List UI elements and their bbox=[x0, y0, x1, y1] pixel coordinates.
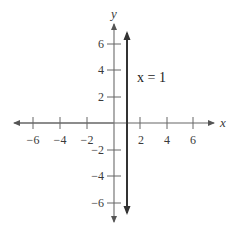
y-tick-label: −6 bbox=[91, 196, 104, 210]
y-tick-label: 6 bbox=[98, 37, 104, 51]
x-tick-label: 4 bbox=[164, 133, 170, 147]
y-tick-label: −4 bbox=[91, 169, 104, 183]
y-axis-label: y bbox=[109, 6, 117, 21]
coordinate-plane: −6 −4 −2 2 4 6 6 4 2 −2 −4 −6 x y x = 1 bbox=[0, 0, 238, 233]
y-tick-label: 2 bbox=[98, 90, 104, 104]
line-annotation: x = 1 bbox=[137, 70, 166, 85]
y-tick-label: −2 bbox=[91, 143, 104, 157]
x-axis-label: x bbox=[219, 115, 226, 130]
x-tick-label: −6 bbox=[27, 133, 40, 147]
x-tick-label: −4 bbox=[54, 133, 67, 147]
x-tick-label: 2 bbox=[138, 133, 144, 147]
x-tick-label: 6 bbox=[190, 133, 196, 147]
y-tick-label: 4 bbox=[98, 63, 104, 77]
